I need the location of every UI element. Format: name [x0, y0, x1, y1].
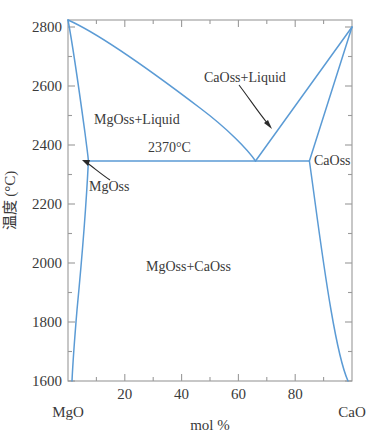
x-axis-title: mol %	[165, 418, 255, 433]
caoss-solvus-curve	[309, 161, 348, 381]
xtick-label-80: 80	[275, 387, 315, 402]
right-axis-major-ticks	[345, 27, 352, 381]
x-endpoint-label-cao: CaO	[327, 405, 374, 420]
mgoss-solidus-curve	[68, 20, 88, 161]
xtick-label-40: 40	[162, 387, 202, 402]
mgoss-arrow	[82, 160, 110, 180]
y-axis-title: 温度 (°C)	[3, 156, 18, 246]
region-label-mgoss: MgOss	[89, 180, 129, 194]
mgoss-solvus-curve	[72, 161, 88, 381]
ytick-label-2800: 2800	[18, 20, 62, 35]
ytick-label-1600: 1600	[18, 374, 62, 389]
ytick-label-2200: 2200	[18, 197, 62, 212]
caoss-liquid-arrow	[239, 85, 272, 129]
y-axis-major-ticks	[68, 27, 75, 381]
xtick-label-60: 60	[218, 387, 258, 402]
region-label-mgoss-caoss: MgOss+CaOss	[146, 260, 231, 274]
eutectic-temperature-label: 2370°C	[148, 141, 191, 155]
caoss-liquidus-curve	[256, 27, 353, 161]
phase-diagram-figure: 1600 1800 2000 2200 2400 2600 2800 20 40…	[0, 0, 374, 438]
region-label-caoss: CaOss	[314, 154, 351, 168]
x-axis-top-minor-ticks	[96, 20, 323, 24]
x-endpoint-label-mgo: MgO	[43, 405, 93, 420]
ytick-label-2400: 2400	[18, 138, 62, 153]
xtick-label-20: 20	[105, 387, 145, 402]
x-axis-minor-ticks	[96, 377, 323, 381]
ytick-label-2600: 2600	[18, 79, 62, 94]
region-label-mgoss-liquid: MgOss+Liquid	[94, 113, 180, 127]
ytick-label-1800: 1800	[18, 315, 62, 330]
ytick-label-2000: 2000	[18, 256, 62, 271]
caoss-solidus-curve	[309, 27, 352, 161]
region-label-caoss-liquid: CaOss+Liquid	[204, 71, 286, 85]
